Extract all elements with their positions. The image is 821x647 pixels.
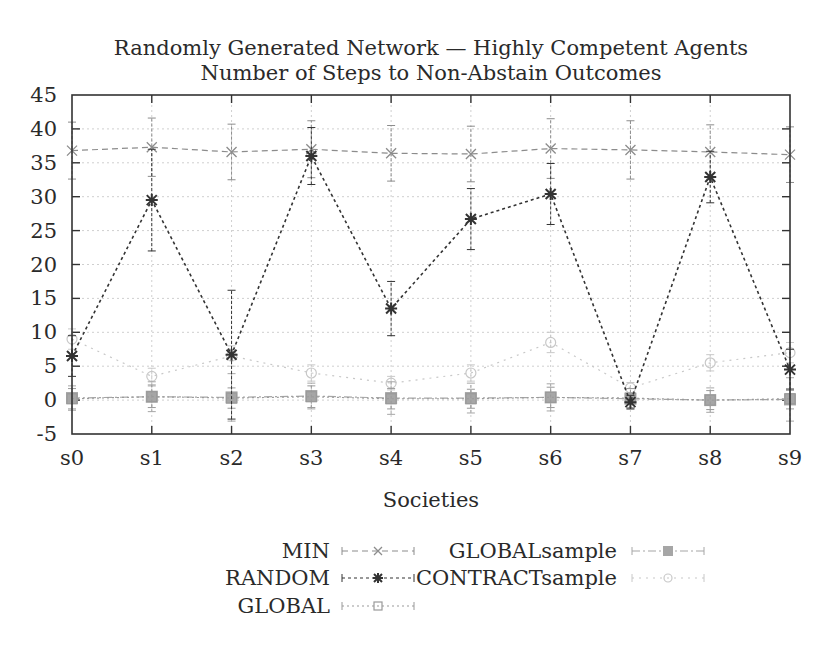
x-tick-label: s8	[698, 446, 722, 470]
data-series	[66, 118, 796, 421]
x-axis-label: Societies	[383, 488, 479, 512]
y-tick-label: 0	[44, 388, 57, 412]
legend-marker-icon	[663, 546, 673, 556]
chart-title: Randomly Generated Network — Highly Comp…	[114, 36, 748, 60]
series-min	[67, 118, 795, 182]
legend-item-random: RANDOM	[225, 566, 414, 590]
chart: Randomly Generated Network — Highly Comp…	[0, 0, 821, 647]
x-axis-ticks: s0s1s2s3s4s5s6s7s8s9	[60, 95, 802, 470]
series-random	[66, 128, 796, 420]
x-tick-label: s0	[60, 446, 84, 470]
y-axis-ticks: -5051015202530354045	[30, 83, 790, 446]
y-tick-label: 20	[30, 253, 57, 277]
y-tick-label: 40	[30, 117, 57, 141]
series-contractsample	[67, 329, 795, 393]
x-tick-label: s7	[618, 446, 642, 470]
legend-item-global: GLOBAL	[238, 594, 414, 618]
x-tick-label: s4	[379, 446, 403, 470]
x-tick-label: s6	[539, 446, 563, 470]
y-tick-label: 30	[30, 185, 57, 209]
legend-label: GLOBALsample	[449, 539, 617, 563]
chart-title-group: Randomly Generated Network — Highly Comp…	[114, 36, 748, 85]
legend: MINRANDOMGLOBALGLOBALsampleCONTRACTsampl…	[225, 539, 704, 618]
y-tick-label: 45	[30, 83, 57, 107]
legend-label: RANDOM	[225, 566, 330, 590]
legend-item-globalsample: GLOBALsample	[449, 539, 704, 563]
series-globalsample	[66, 374, 796, 421]
y-tick-label: 10	[30, 320, 57, 344]
legend-label: CONTRACTsample	[416, 566, 617, 590]
y-tick-label: -5	[37, 422, 57, 446]
y-tick-label: 15	[30, 286, 57, 310]
x-tick-label: s9	[778, 446, 802, 470]
x-tick-label: s5	[459, 446, 483, 470]
legend-item-contractsample: CONTRACTsample	[416, 566, 704, 590]
legend-item-min: MIN	[282, 539, 414, 563]
y-tick-label: 25	[30, 219, 57, 243]
legend-marker-icon	[373, 573, 383, 583]
x-tick-label: s2	[219, 446, 243, 470]
y-tick-label: 35	[30, 151, 57, 175]
legend-label: GLOBAL	[238, 594, 331, 618]
legend-label: MIN	[282, 539, 330, 563]
x-tick-label: s3	[299, 446, 323, 470]
y-tick-label: 5	[44, 354, 57, 378]
chart-subtitle: Number of Steps to Non-Abstain Outcomes	[201, 61, 662, 85]
x-tick-label: s1	[140, 446, 164, 470]
